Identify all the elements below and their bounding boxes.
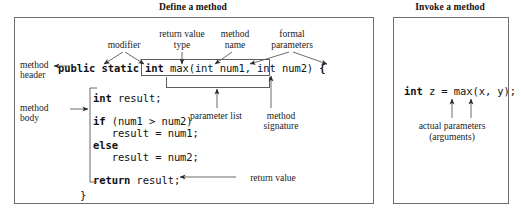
code-text-result: result; [112,92,162,104]
callout-label-formal-parameters-line1: formal [259,29,325,40]
code-body-line-4: result = num1; [93,127,199,139]
callout-label-actual-parameters-line1: actual parameters [398,121,506,132]
code-keyword-return: return [93,174,130,186]
code-body-line-5: else [93,139,118,151]
callout-label-return-value-type-line1: return value [153,29,211,40]
method-signature-box [141,59,270,76]
callout-label-method-signature-line2: signature [256,121,306,132]
callout-label-modifier: modifier [96,40,152,51]
side-label-method-body-line2: body [20,113,68,124]
code-body-line-8: return result; [93,174,180,186]
callout-label-parameter-list: parameter list [178,111,254,122]
invoke-a-method-title: Invoke a method [393,2,507,12]
invoke-a-method-panel [393,17,509,204]
invoke-code-line: int z = max(x, y); [404,85,516,97]
side-label-method-body-line1: method [20,103,68,114]
parameter-list-bracket [166,77,270,88]
code-keyword-int: int [93,92,112,104]
callout-label-formal-parameters-line2: parameters [259,40,325,51]
callout-label-method-signature-line1: method [256,111,306,122]
code-return-expression: result; [130,174,180,186]
code-opening-brace: { [313,62,325,74]
code-body-line-1: int result; [93,92,161,104]
callout-label-actual-parameters-line2: (arguments) [398,132,506,143]
define-a-method-title: Define a method [14,2,372,12]
callout-label-method-name-line1: method [213,29,257,40]
code-closing-brace: } [80,189,86,201]
code-keyword-else: else [93,139,118,151]
invoke-expression: z = max(x, y); [423,85,516,97]
code-keyword-if: if [93,115,105,127]
callout-label-return-value: return value [240,173,306,184]
invoke-keyword-int: int [404,85,423,97]
callout-label-method-name-line2: name [213,40,257,51]
callout-label-return-value-type-line2: type [153,40,211,51]
code-body-line-6: result = num2; [93,151,199,163]
